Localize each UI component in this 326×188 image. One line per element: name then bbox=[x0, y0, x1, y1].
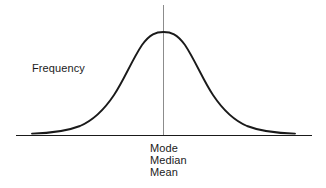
distribution-figure: Frequency Mode Median Mean bbox=[0, 0, 326, 188]
label-mode: Mode bbox=[150, 142, 187, 154]
y-axis-label: Frequency bbox=[32, 62, 85, 74]
label-mean: Mean bbox=[150, 166, 187, 178]
central-tendency-labels: Mode Median Mean bbox=[150, 142, 187, 178]
label-median: Median bbox=[150, 154, 187, 166]
